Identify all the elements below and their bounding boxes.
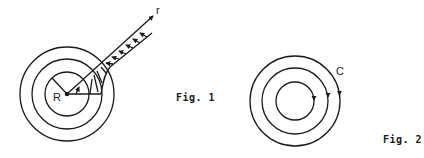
- fig2-group: [250, 56, 340, 146]
- fig1-hatch: [112, 57, 119, 59]
- fig1-hatch: [140, 33, 147, 37]
- diagram-canvas: [0, 0, 424, 158]
- fig2-inner-circle: [276, 82, 314, 120]
- fig1-group: [20, 16, 153, 141]
- fig1-label-r-axis: r: [156, 5, 160, 16]
- fig2-caption: Fig. 2: [383, 135, 422, 145]
- fig1-label-R: R: [53, 92, 61, 103]
- fig1-hatch: [133, 39, 140, 43]
- fig2-outer-circle: [250, 56, 340, 146]
- fig1-hatch: [106, 63, 113, 64]
- fig1-hatch: [101, 67, 106, 73]
- fig1-radial-axis: [67, 16, 153, 94]
- fig1-hatch: [90, 79, 92, 94]
- fig1-caption: Fig. 1: [176, 93, 215, 103]
- fig1-hatch: [126, 45, 133, 48]
- fig2-middle-circle: [262, 68, 328, 134]
- fig2-label-C: C: [336, 66, 344, 77]
- fig1-hatch: [76, 87, 79, 94]
- fig1-hatch: [119, 51, 126, 54]
